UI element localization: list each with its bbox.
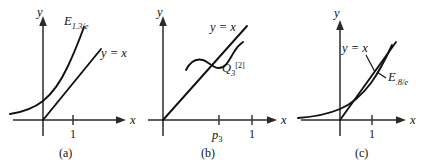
panel-a: y x 1 E1.3/e y = x (a) <box>10 5 136 160</box>
panel-c-label: (c) <box>355 146 368 160</box>
panel-c-x-axis <box>301 116 406 124</box>
panel-b-x-axis <box>148 116 277 124</box>
panel-c-y-axis-label: y <box>332 6 340 20</box>
panel-b-x-axis-label: x <box>280 113 287 127</box>
panel-b-curve-label: Q3[2] <box>222 61 245 78</box>
panel-a-tick-label-1: 1 <box>70 127 76 141</box>
panel-b-y-axis-label: y <box>155 5 163 19</box>
math-figure-three-panels: y x 1 E1.3/e y = x (a) <box>0 0 426 164</box>
panel-c-line-label-leader <box>366 55 375 72</box>
panel-c: y x 1 y = x E.8/e (c) <box>298 6 416 160</box>
panel-a-x-axis <box>13 116 126 124</box>
panel-a-label: (a) <box>59 146 72 160</box>
panel-a-identity-line <box>43 49 101 120</box>
panel-b-line-label: y = x <box>208 20 236 34</box>
panel-b-label: (b) <box>201 146 215 160</box>
panel-a-x-axis-label: x <box>129 113 136 127</box>
panel-b-tick-label-p3: p3 <box>211 128 223 144</box>
panel-b: y x p3 1 y = x Q3[2] (b) <box>148 5 287 160</box>
panel-a-exponential-curve <box>10 27 84 114</box>
panel-b-tick-label-1: 1 <box>249 127 255 141</box>
panel-c-line-label: y = x <box>340 41 368 55</box>
panel-a-curve-label: E1.3/e <box>63 14 89 31</box>
panel-c-exponential-curve <box>298 45 392 118</box>
panel-a-line-label: y = x <box>99 46 127 60</box>
panel-c-x-axis-label: x <box>409 113 416 127</box>
panel-c-tick-label-1: 1 <box>369 127 375 141</box>
panel-c-curve-label-leader <box>377 72 386 78</box>
panel-a-y-axis-label: y <box>35 5 43 19</box>
panel-c-curve-label: E.8/e <box>387 70 408 87</box>
